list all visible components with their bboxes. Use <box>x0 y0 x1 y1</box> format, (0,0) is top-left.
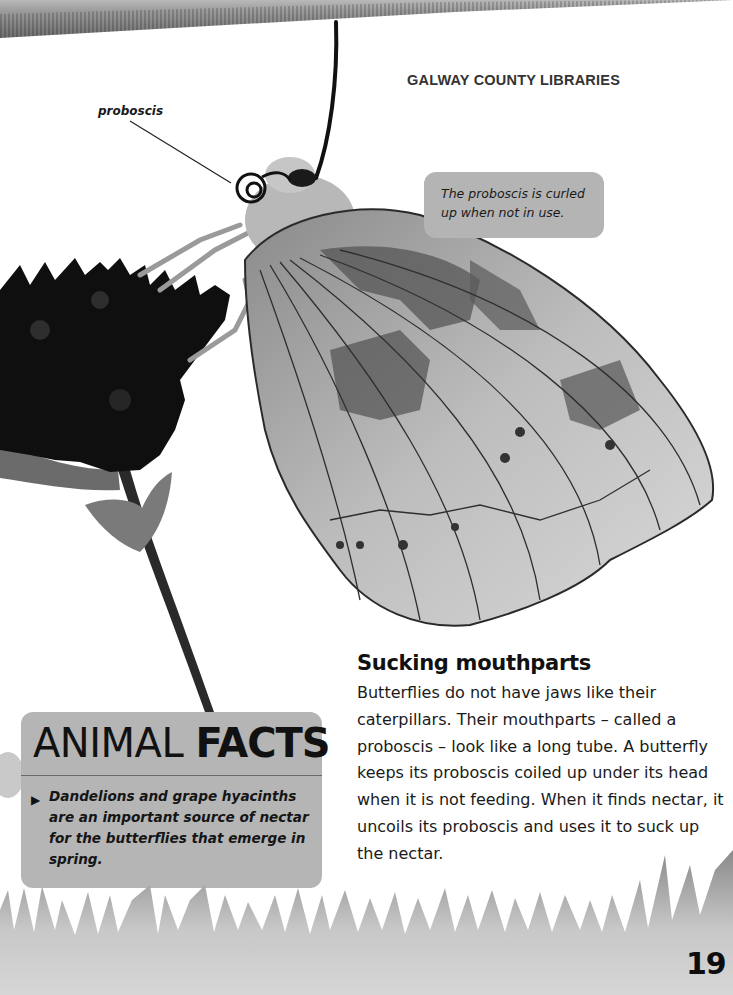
section-heading: Sucking mouthparts <box>357 651 591 675</box>
proboscis-label: proboscis <box>98 104 163 118</box>
page-number: 19 <box>686 946 726 981</box>
facts-title: ANIMAL FACTS <box>33 718 330 768</box>
facts-divider <box>21 775 322 776</box>
facts-title-light: ANIMAL <box>33 720 195 766</box>
caption-text: The proboscis is curled up when not in u… <box>441 184 601 222</box>
grass-border <box>0 840 733 995</box>
triangle-right-icon: ▶ <box>31 793 40 807</box>
caption-box: The proboscis is curled up when not in u… <box>424 172 604 238</box>
facts-title-bold: FACTS <box>195 720 329 766</box>
